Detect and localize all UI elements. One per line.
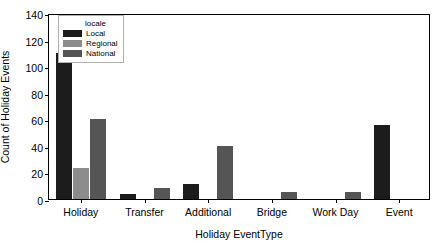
legend: locale LocalRegionalNational <box>58 15 124 63</box>
y-axis-tick-mark <box>45 95 49 96</box>
bar-chart-figure: Count of Holiday Events 0204060801001201… <box>0 0 446 250</box>
bar <box>120 194 136 199</box>
y-axis-tick-mark <box>45 42 49 43</box>
y-axis-tick-mark <box>45 121 49 122</box>
y-axis-title: Count of Holiday Events <box>0 14 12 200</box>
legend-label: National <box>86 49 115 58</box>
legend-entry: National <box>63 49 118 58</box>
bar <box>56 53 72 199</box>
legend-swatch <box>63 40 82 47</box>
x-axis-tick-mark <box>145 199 146 203</box>
x-axis-title: Holiday EventType <box>48 228 430 240</box>
x-axis-tick-label: Bridge <box>257 206 287 218</box>
legend-entry: Local <box>63 29 118 38</box>
x-axis-tick-label: Event <box>386 206 413 218</box>
y-axis-tick-mark <box>45 15 49 16</box>
bar <box>217 146 233 199</box>
bar <box>90 119 106 199</box>
y-axis-title-text: Count of Holiday Events <box>0 51 11 164</box>
legend-label: Regional <box>86 39 118 48</box>
bar <box>281 192 297 199</box>
y-axis-tick-mark <box>45 148 49 149</box>
x-axis-tick-label: Holiday <box>63 206 98 218</box>
legend-swatch <box>63 30 82 37</box>
x-axis-tick-label: Work Day <box>313 206 359 218</box>
x-axis-tick-mark <box>81 199 82 203</box>
y-axis-tick-mark <box>45 68 49 69</box>
legend-entry: Regional <box>63 39 118 48</box>
bar <box>183 184 199 199</box>
legend-entries: LocalRegionalNational <box>63 29 118 58</box>
x-axis-tick-label: Additional <box>185 206 231 218</box>
x-axis-tick-mark <box>272 199 273 203</box>
bar <box>154 188 170 199</box>
legend-label: Local <box>86 29 105 38</box>
bar <box>374 125 390 199</box>
x-axis-tick-mark <box>399 199 400 203</box>
bar <box>73 168 89 199</box>
x-axis-tick-mark <box>208 199 209 203</box>
x-axis-tick-label: Transfer <box>125 206 164 218</box>
y-axis-tick-mark <box>45 174 49 175</box>
y-axis-tick-mark <box>45 201 49 202</box>
legend-swatch <box>63 50 82 57</box>
bar <box>345 192 361 199</box>
legend-title: locale <box>85 19 118 28</box>
x-axis-tick-mark <box>336 199 337 203</box>
